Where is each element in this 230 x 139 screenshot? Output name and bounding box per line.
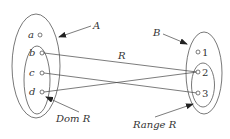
set-a-label: A (92, 20, 100, 31)
element-b-label: b (29, 47, 35, 58)
relation-diagram: a b c d 1 2 3 A B R Dom R Range R (0, 0, 230, 139)
set-a-ellipse (12, 14, 60, 118)
element-a-label: a (28, 29, 34, 40)
element-3-label: 3 (202, 88, 208, 99)
edge-d-2 (44, 72, 197, 92)
domain-label: Dom R (55, 113, 91, 124)
element-b-point (40, 51, 44, 55)
range-arrow-icon (155, 104, 193, 117)
element-1-label: 1 (202, 47, 208, 58)
element-2-label: 2 (202, 67, 208, 78)
set-b-label: B (152, 27, 160, 38)
element-a-point (38, 33, 42, 37)
domain-ellipse (24, 46, 50, 114)
element-c-point (40, 71, 44, 75)
element-1-point (196, 50, 200, 54)
range-label: Range R (132, 119, 177, 130)
diagram-canvas: a b c d 1 2 3 A B R Dom R Range R (0, 0, 230, 139)
relation-label: R (117, 50, 126, 61)
element-c-label: c (29, 67, 35, 78)
element-d-label: d (29, 86, 35, 97)
element-d-point (40, 90, 44, 94)
set-b-arrow-icon (163, 34, 187, 44)
domain-arrow-icon (46, 97, 79, 112)
element-3-point (196, 91, 200, 95)
set-a-arrow-icon (59, 26, 91, 37)
edge-c-3 (44, 73, 197, 93)
element-2-point (196, 70, 200, 74)
